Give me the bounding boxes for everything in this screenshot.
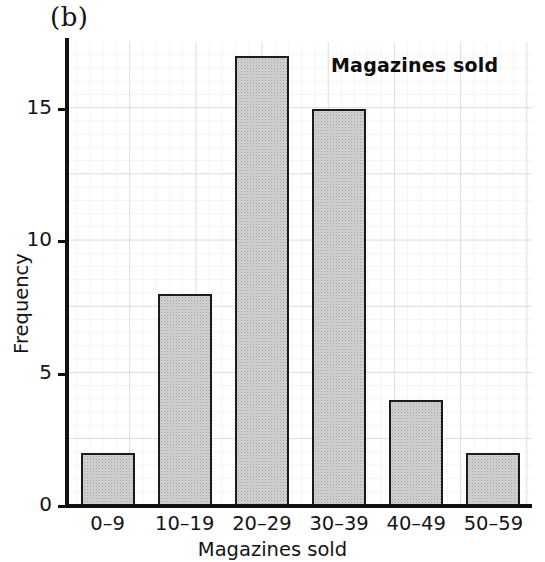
y-axis-tick-label: 15	[0, 97, 52, 117]
y-axis-tick	[58, 240, 69, 243]
bar	[466, 453, 520, 506]
y-axis-tick	[58, 108, 69, 111]
x-axis-tick-label: 10–19	[146, 512, 223, 535]
bar	[81, 453, 135, 506]
y-axis-tick-label: 0	[0, 494, 52, 514]
x-axis-title: Magazines sold	[0, 538, 545, 561]
bar	[235, 56, 289, 506]
panel-label: (b)	[50, 2, 88, 32]
bar	[312, 109, 366, 506]
x-axis-tick-label: 20–29	[223, 512, 300, 535]
chart-title: Magazines sold	[331, 54, 498, 76]
bar	[158, 294, 212, 506]
bar-series	[69, 42, 532, 506]
y-axis-tick	[58, 373, 69, 376]
histogram-figure: (b) 051015 0–910–1920–2930–3940–4950–59 …	[0, 0, 545, 562]
y-axis-title: Frequency	[10, 234, 33, 374]
x-axis-tick-label: 0–9	[69, 512, 146, 535]
y-axis-tick	[58, 505, 69, 508]
plot-area	[69, 42, 532, 506]
x-axis-tick-label: 30–39	[301, 512, 378, 535]
x-axis-line	[65, 504, 532, 508]
bar	[389, 400, 443, 506]
x-axis-tick-label: 40–49	[378, 512, 455, 535]
x-axis-tick-label: 50–59	[455, 512, 532, 535]
